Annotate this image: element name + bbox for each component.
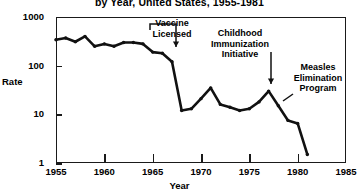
data-point (64, 36, 67, 39)
data-point (93, 45, 96, 48)
annotation-vaccine-licensed: Vaccine Licensed (141, 18, 203, 39)
data-point (112, 45, 115, 48)
data-point (306, 153, 309, 156)
data-point (151, 50, 154, 53)
annotation-childhood-immunization: Childhood Immunization Initiative (204, 28, 276, 60)
data-point (248, 107, 251, 110)
data-point (180, 109, 183, 112)
data-point (190, 107, 193, 110)
data-point (228, 106, 231, 109)
data-point (209, 86, 212, 89)
data-point (238, 109, 241, 112)
data-point (161, 52, 164, 55)
data-point (219, 103, 222, 106)
data-point (267, 89, 270, 92)
data-point (132, 41, 135, 44)
data-point (257, 100, 260, 103)
chart-container: by Year, United States, 1955-1981 1000 1… (0, 0, 359, 196)
data-point (286, 119, 289, 122)
data-point (74, 40, 77, 43)
data-point (199, 97, 202, 100)
data-point (170, 60, 173, 63)
data-point (122, 41, 125, 44)
annotation-measles-elimination: Measles Elimination Program (286, 62, 350, 94)
data-point (83, 35, 86, 38)
data-point (296, 122, 299, 125)
data-point (141, 42, 144, 45)
data-point (54, 38, 57, 41)
data-point (277, 104, 280, 107)
data-point (103, 42, 106, 45)
